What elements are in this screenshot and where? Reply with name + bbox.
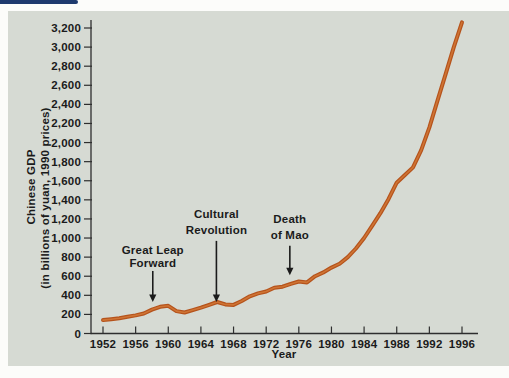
y-axis-title-line2: (in billions of yuan, 1990 prices) (39, 107, 51, 288)
y-tick-label: 1,000 (51, 232, 81, 244)
annotation-cultural-revolution: CulturalRevolution (186, 208, 247, 302)
annotation-label: of Mao (271, 229, 309, 241)
y-tick-label: 2,600 (51, 79, 81, 91)
axis-ticks: 02004006008001,0001,2001,4001,6001,8002,… (51, 22, 475, 350)
gdp-line-highlight (103, 22, 462, 320)
x-tick-label: 1980 (318, 338, 344, 350)
y-tick-label: 2,000 (51, 137, 81, 149)
y-axis-title-line1: Chinese GDP (25, 149, 37, 224)
gdp-line-series (103, 22, 462, 320)
x-tick-label: 1960 (155, 338, 181, 350)
y-tick-label: 3,200 (51, 22, 81, 34)
annotation-arrowhead (149, 294, 156, 302)
y-tick-label: 3,000 (51, 41, 81, 53)
annotation-label: Great Leap (122, 244, 184, 256)
x-tick-label: 1956 (122, 338, 148, 350)
annotation-label: Death (273, 213, 306, 225)
annotation-death-of-mao: Deathof Mao (271, 213, 309, 275)
y-tick-label: 800 (61, 251, 81, 263)
x-axis-title: Year (271, 348, 296, 360)
x-tick-label: 1996 (449, 338, 475, 350)
y-tick-label: 1,800 (51, 156, 81, 168)
y-tick-label: 0 (74, 328, 81, 340)
x-tick-label: 1984 (351, 338, 378, 350)
annotation-great-leap-forward: Great LeapForward (122, 244, 184, 302)
y-tick-label: 400 (61, 289, 81, 301)
annotation-arrowhead (286, 268, 293, 276)
x-tick-label: 1964 (188, 338, 215, 350)
x-tick-label: 1952 (90, 338, 116, 350)
y-tick-label: 1,200 (51, 213, 81, 225)
y-tick-label: 2,400 (51, 98, 81, 110)
y-tick-label: 200 (61, 308, 81, 320)
x-tick-label: 1988 (384, 338, 411, 350)
gdp-line-chart: 02004006008001,0001,2001,4001,6001,8002,… (0, 0, 509, 378)
x-tick-label: 1968 (220, 338, 247, 350)
y-tick-label: 1,400 (51, 194, 81, 206)
annotation-label: Forward (129, 257, 176, 269)
annotation-label: Cultural (194, 208, 239, 220)
y-tick-label: 2,800 (51, 60, 81, 72)
annotation-label: Revolution (186, 224, 247, 236)
x-tick-label: 1992 (416, 338, 442, 350)
y-tick-label: 1,600 (51, 175, 81, 187)
y-tick-label: 2,200 (51, 117, 81, 129)
y-tick-label: 600 (61, 270, 81, 282)
